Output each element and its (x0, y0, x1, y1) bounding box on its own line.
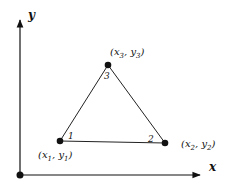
x-axis-label: x (208, 160, 217, 174)
vertex-3-coord-label: (x3, y3) (110, 46, 145, 60)
origin-point (17, 172, 24, 179)
y-axis-label: y (27, 8, 36, 22)
triangle-element (60, 65, 165, 143)
vertex-3-node (105, 62, 112, 69)
vertex-1-node (57, 138, 64, 145)
triangle-element-diagram: y x 1 2 3 (x1, y1) (x2, y2) (x3, y3) (0, 0, 235, 185)
vertex-1-coord-label: (x1, y1) (38, 149, 73, 163)
vertex-2-node (162, 140, 169, 147)
vertex-1-number: 1 (68, 131, 74, 141)
vertex-2-number: 2 (147, 134, 154, 144)
vertex-2-coord-label: (x2, y2) (181, 138, 216, 152)
vertex-3-number: 3 (104, 71, 110, 81)
